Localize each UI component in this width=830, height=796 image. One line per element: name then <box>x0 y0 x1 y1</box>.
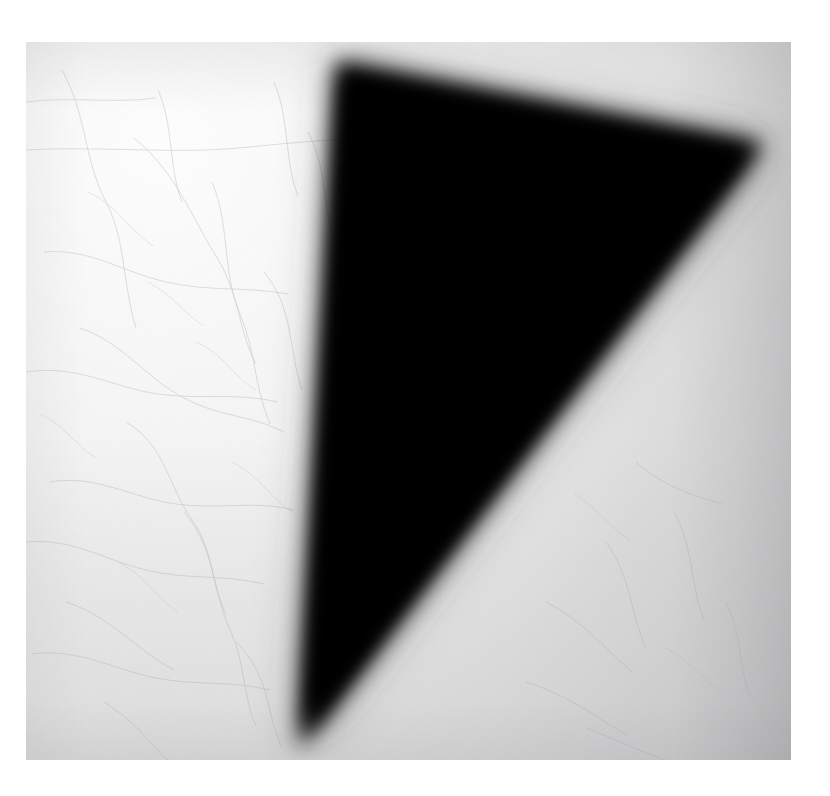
edge-shade-right <box>671 42 791 760</box>
photographic-plate <box>26 42 791 760</box>
edge-shade-left <box>26 42 86 760</box>
image-canvas: Black Triangle <box>0 0 830 796</box>
